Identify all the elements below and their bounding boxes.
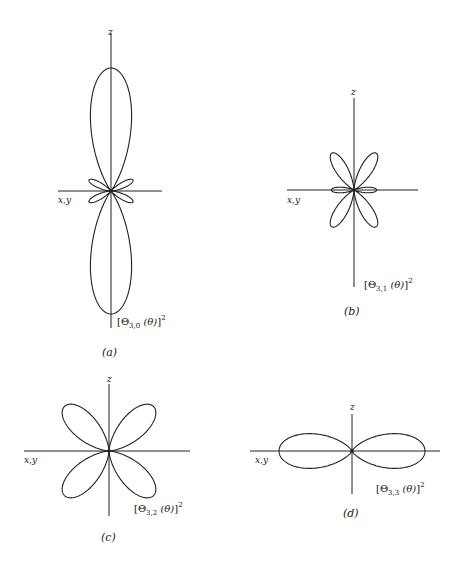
fn-symbol: Θ: [380, 483, 388, 494]
fn-subscript: 3,3: [388, 489, 399, 497]
fn-arg: (θ): [160, 503, 174, 514]
fn-subscript: 3,1: [376, 285, 387, 293]
panel-c-theta-3-2-plot: [24, 384, 190, 516]
fn-subscript: 3,0: [129, 322, 140, 330]
fn-power: 2: [178, 501, 182, 509]
panel-d-caption: (d): [343, 508, 359, 519]
panel-c-caption: (c): [101, 532, 116, 543]
origin-dot: [109, 189, 113, 193]
fn-symbol: Θ: [138, 503, 146, 514]
origin-dot: [350, 449, 354, 453]
fn-arg: (θ): [390, 279, 404, 290]
fn-symbol: Θ: [121, 316, 129, 327]
panel-b-theta-3-1-plot: [287, 98, 418, 287]
fn-arg: (θ): [143, 316, 157, 327]
panel-c-function-label: [Θ3,2 (θ)]2: [134, 502, 183, 517]
panel-b-function-label: [Θ3,1 (θ)]2: [364, 278, 413, 293]
fn-arg: (θ): [402, 483, 416, 494]
panel-d-xy-axis-label: x,y: [255, 456, 268, 465]
panel-a-xy-axis-label: x,y: [58, 196, 71, 205]
fn-power: 2: [420, 481, 424, 489]
fn-subscript: 3,2: [146, 509, 157, 517]
panel-b-z-axis-label: z: [351, 88, 356, 97]
panel-c-xy-axis-label: x,y: [24, 456, 37, 465]
panel-c-z-axis-label: z: [107, 375, 112, 384]
origin-dot: [352, 188, 356, 192]
fn-power: 2: [161, 314, 165, 322]
panel-b-xy-axis-label: x,y: [287, 196, 300, 205]
panel-d-function-label: [Θ3,3 (θ)]2: [376, 482, 425, 497]
fn-power: 2: [408, 277, 412, 285]
panel-a-theta-3-0-plot: [58, 33, 162, 328]
origin-dot: [107, 449, 111, 453]
panel-a-caption: (a): [102, 347, 117, 358]
panel-d-z-axis-label: z: [350, 403, 355, 412]
panel-a-z-axis-label: z: [108, 28, 113, 37]
panel-b-caption: (b): [344, 306, 360, 317]
panel-a-function-label: [Θ3,0 (θ)]2: [117, 315, 166, 330]
fn-symbol: Θ: [368, 279, 376, 290]
